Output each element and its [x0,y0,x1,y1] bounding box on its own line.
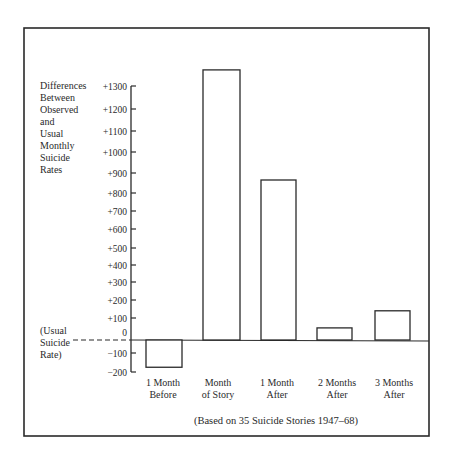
y-tick-label: +1000 [103,148,128,158]
y-axis-label-line: Differences [40,80,87,91]
y-axis-label-line: Between [40,92,75,103]
y-tick-label: +1200 [103,105,128,115]
y-tick-label: −100 [107,349,127,359]
y-tick-label: +300 [107,278,127,288]
y-tick-label: +400 [107,261,127,271]
bar-1-month-after [261,180,296,340]
y-tick-label: +100 [107,314,127,324]
x-category-label: After [326,389,348,400]
y-axis-label-line: Monthly [40,140,74,151]
bar-1-month-before [146,340,182,367]
x-category-label: Before [149,389,177,400]
x-category-label: of Story [202,389,235,400]
y-tick-label: +800 [107,189,127,199]
y-axis-label-line: Rates [40,164,62,175]
y-tick-label: +700 [107,207,127,217]
x-category-label: 1 Month [146,377,180,388]
y-tick-label: +600 [107,225,127,235]
baseline-label-line: Suicide [40,337,71,348]
x-category-label: Month [205,377,232,388]
y-tick-label: −200 [107,368,127,378]
baseline-label-line: Rate) [40,349,62,361]
y-tick-label: +1300 [103,82,128,92]
x-category-label: After [266,389,288,400]
bar-chart: DifferencesBetweenObservedandUsualMonthl… [0,0,454,466]
y-tick-label: +900 [107,169,127,179]
baseline-label-line: (Usual [40,325,67,337]
bar-3-months-after [375,311,410,340]
x-category-label: 3 Months [375,377,413,388]
y-tick-label: +500 [107,244,127,254]
x-category-label: 2 Months [318,377,356,388]
y-axis-label-line: Observed [40,104,78,115]
y-tick-label: +1100 [103,127,127,137]
x-category-label: 1 Month [260,377,294,388]
y-tick-label: 0 [122,328,127,338]
bar-2-months-after [317,328,352,340]
y-tick-label: +200 [107,296,127,306]
y-axis-label-line: Suicide [40,152,71,163]
y-axis-label-line: Usual [40,128,64,139]
y-axis-label-line: and [40,116,54,127]
x-category-label: After [383,389,405,400]
bar-month-of-story [203,70,240,340]
caption: (Based on 35 Suicide Stories 1947–68) [194,415,359,427]
